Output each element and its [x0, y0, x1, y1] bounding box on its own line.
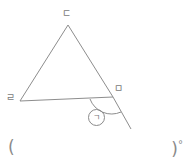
vertex-label-bottom-left: ㄹ: [6, 93, 15, 103]
degree-symbol: °: [178, 139, 183, 150]
angle-label-circled: ㄱ: [88, 109, 105, 126]
vertex-label-apex: ㄷ: [62, 9, 71, 19]
extended-line-segment: [113, 97, 131, 129]
answer-input-blank[interactable]: [15, 147, 172, 148]
vertex-label-bottom-right: ㅁ: [114, 84, 123, 94]
triangle-side-left: [20, 25, 68, 101]
answer-blank-row: ( )°: [0, 132, 191, 162]
triangle-side-right: [68, 25, 113, 97]
answer-close-paren: )°: [171, 136, 183, 158]
triangle-base: [20, 97, 113, 101]
answer-close-paren-glyph: ): [171, 139, 178, 159]
answer-open-paren: (: [8, 139, 15, 156]
